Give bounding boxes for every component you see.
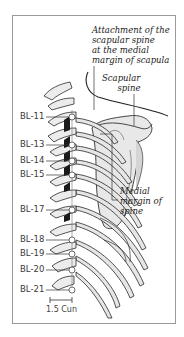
annotation-medial-margin: Medial margin of spine — [120, 186, 162, 216]
label-bl-19: BL-19 — [20, 249, 44, 258]
label-bl-20: BL-20 — [20, 265, 44, 274]
label-bl-14: BL-14 — [20, 156, 44, 165]
label-bl-18: BL-18 — [20, 235, 44, 244]
label-bl-17: BL-17 — [20, 205, 44, 214]
scale-label: 1.5 Cun — [46, 305, 77, 314]
vertebrae — [44, 82, 76, 290]
scale-bar — [50, 297, 72, 303]
label-bl-13: BL-13 — [20, 140, 44, 149]
label-bl-15: BL-15 — [20, 170, 44, 179]
label-bl-11: BL-11 — [20, 112, 44, 121]
label-bl-21: BL-21 — [20, 285, 44, 294]
annotation-attachment: Attachment of the scapular spine at the … — [92, 25, 170, 65]
annotation-scapular-spine: Scapular spine — [102, 73, 140, 93]
